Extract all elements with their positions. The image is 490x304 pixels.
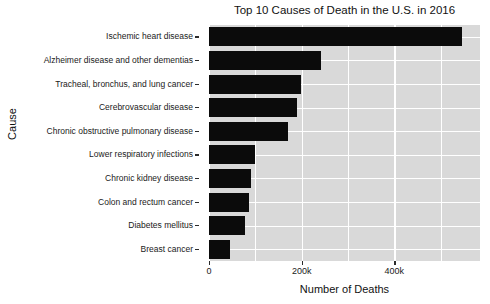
bar bbox=[209, 98, 297, 117]
y-axis-tick-label: Lower respiratory infections bbox=[89, 145, 193, 164]
chart-figure: Top 10 Causes of Death in the U.S. in 20… bbox=[0, 0, 490, 304]
y-axis-tick-mark bbox=[195, 36, 199, 37]
y-axis-tick-mark bbox=[195, 154, 199, 155]
y-axis-tick-label: Breast cancer bbox=[141, 240, 193, 259]
bar bbox=[209, 51, 321, 70]
y-axis-tick-mark bbox=[195, 107, 199, 108]
x-axis-tick-label: 200k bbox=[272, 266, 332, 276]
x-axis-title: Number of Deaths bbox=[209, 283, 480, 295]
y-axis-tick-labels: Ischemic heart diseaseAlzheimer disease … bbox=[0, 25, 201, 261]
chart-title: Top 10 Causes of Death in the U.S. in 20… bbox=[209, 3, 480, 18]
bar bbox=[209, 27, 462, 46]
y-axis-tick-label: Chronic kidney disease bbox=[105, 169, 193, 188]
bar bbox=[209, 216, 245, 235]
bar bbox=[209, 193, 249, 212]
bar bbox=[209, 145, 255, 164]
y-axis-tick-mark bbox=[195, 84, 199, 85]
y-axis-tick-mark bbox=[195, 60, 199, 61]
y-axis-tick-mark bbox=[195, 178, 199, 179]
y-axis-tick-label: Alzheimer disease and other dementias bbox=[44, 51, 193, 70]
y-axis-tick-label: Diabetes mellitus bbox=[128, 216, 193, 235]
gridline-horizontal bbox=[209, 226, 480, 227]
bar bbox=[209, 75, 301, 94]
bar bbox=[209, 240, 230, 259]
x-axis-tick-mark bbox=[302, 261, 303, 265]
y-axis-tick-label: Tracheal, bronchus, and lung cancer bbox=[55, 75, 193, 94]
gridline-horizontal bbox=[209, 249, 480, 250]
x-axis-tick-mark bbox=[209, 261, 210, 265]
x-axis-tick-mark bbox=[394, 261, 395, 265]
y-axis-tick-label: Chronic obstructive pulmonary disease bbox=[47, 122, 193, 141]
gridline-horizontal bbox=[209, 202, 480, 203]
x-axis-tick-label: 0 bbox=[179, 266, 239, 276]
y-axis-tick-mark bbox=[195, 202, 199, 203]
bar bbox=[209, 122, 288, 141]
y-axis-tick-label: Cerebrovascular disease bbox=[99, 98, 193, 117]
bar bbox=[209, 169, 251, 188]
y-axis-tick-label: Ischemic heart disease bbox=[106, 27, 193, 46]
y-axis-tick-mark bbox=[195, 225, 199, 226]
plot-area bbox=[209, 25, 480, 261]
y-axis-tick-label: Colon and rectum cancer bbox=[98, 193, 193, 212]
y-axis-tick-mark bbox=[195, 131, 199, 132]
y-axis-tick-mark bbox=[195, 249, 199, 250]
x-axis-tick-label: 400k bbox=[364, 266, 424, 276]
